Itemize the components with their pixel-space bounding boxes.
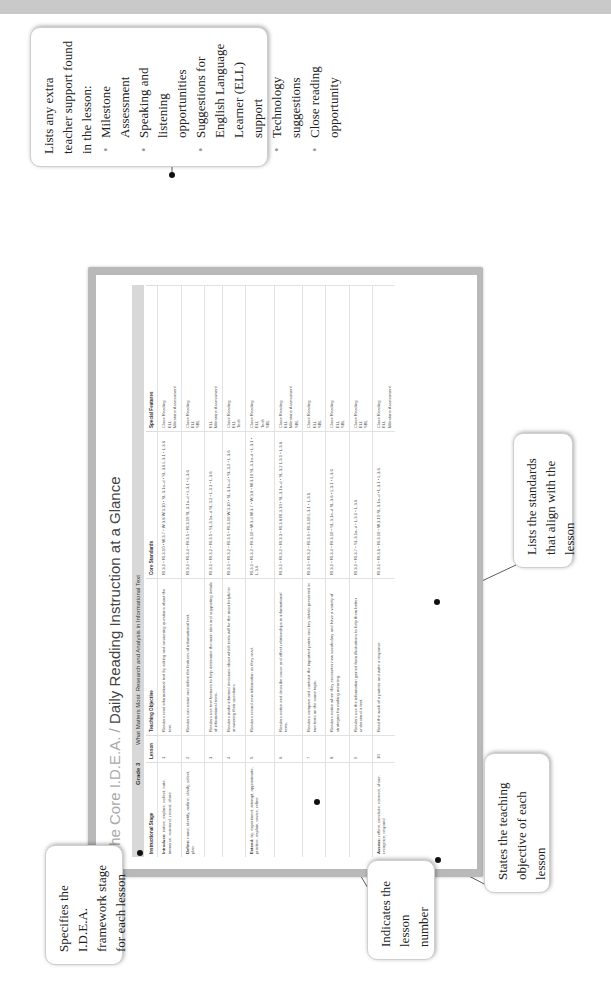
callout-stage-text: Specifies the I.D.E.A. framework stage f…: [56, 865, 128, 952]
stage-label: Extend:: [249, 839, 254, 854]
marker-dot-stage: [137, 850, 143, 856]
lesson-table: Instructional Stage Lesson Teaching Obje…: [146, 285, 395, 857]
grade-label: Grade 3: [132, 763, 144, 785]
title-separator: /: [106, 724, 123, 737]
special-features-item: Milestone Assessment: [96, 40, 134, 154]
table-row: 8Readers notice when they encounter new …: [326, 286, 349, 858]
cell-lesson: 8: [326, 736, 349, 763]
cell-stage: [274, 763, 303, 858]
cell-features: Close Reading ELL SBL: [303, 286, 326, 432]
col-header-stage: Instructional Stage: [146, 763, 158, 858]
cell-lesson: 1: [158, 736, 181, 763]
cell-features: Close Reading ELL Milestone Assessment: [372, 286, 395, 432]
cell-stage: [204, 763, 222, 858]
table-row: 3Readers use text features to help deter…: [204, 286, 222, 858]
cell-stage: Define: name, identify, outline, clarify…: [181, 763, 204, 858]
cell-standards: RI.3.1 • RI.3.6 • RI.3.10 • W.3.10 SL.3.…: [372, 432, 395, 579]
cell-stage: Assess: reflect, conclude, connect, shar…: [372, 763, 395, 858]
cell-stage: [303, 763, 326, 858]
cell-stage: Extend: try, experiment, attempt, approx…: [245, 763, 274, 858]
callout-standards-text: Lists the standards that align with the …: [524, 458, 577, 555]
cell-lesson: 3: [204, 736, 222, 763]
stage-label: Introduce:: [161, 834, 166, 854]
cell-objective: Readers can name and define the features…: [181, 579, 204, 736]
callout-objective: States the teaching objective of each le…: [484, 753, 550, 893]
cell-stage: [222, 763, 245, 858]
cell-features: ELL Milestone Assessment: [204, 286, 222, 432]
document-title: The Core I.D.E.A. / Daily Reading Instru…: [106, 476, 123, 855]
cell-standards: RI.3.1 • RI.3.2 • RI.3.3 • RI.3.8 RI.3.1…: [274, 432, 303, 579]
callout-stage: Specifies the I.D.E.A. framework stage f…: [45, 845, 123, 965]
cell-stage: Introduce: notice, explore, collect, not…: [158, 763, 181, 858]
col-header-standards: Core Standards: [146, 432, 158, 579]
special-features-list: Milestone Assessment Speaking and listen…: [96, 40, 343, 154]
special-features-item: Technology suggestions: [267, 40, 305, 154]
marker-dot-lesson: [314, 799, 320, 805]
table-row: Extend: try, experiment, attempt, approx…: [245, 286, 274, 858]
title-brand: The Core I.D.E.A.: [106, 737, 123, 855]
col-header-objective: Teaching Objective: [146, 579, 158, 736]
cell-features: Close Reading ELL SBL: [326, 286, 349, 432]
table-row: Assess: reflect, conclude, connect, shar…: [372, 286, 395, 858]
cell-stage: [349, 763, 372, 858]
cell-standards: RI.3.1 • RI.3.2 • RI.3.5 • RI.3.10 W.3.1…: [222, 432, 245, 579]
callout-standards: Lists the standards that align with the …: [513, 433, 573, 568]
cell-objective: Readers read informational text by askin…: [158, 579, 181, 736]
table-row: 9Readers use the information gained from…: [349, 286, 372, 858]
table-row: Introduce: notice, explore, collect, not…: [158, 286, 181, 858]
marker-dot-objective: [435, 857, 441, 863]
cell-objective: Readers use text features to help determ…: [204, 579, 222, 736]
cell-features: Close Reading ELL Milestone Assessment: [158, 286, 181, 432]
col-header-features: Special Features: [146, 286, 158, 432]
cell-lesson: 10: [372, 736, 395, 763]
callout-special-features-intro: Lists any extra teacher support found in…: [39, 40, 96, 154]
cell-objective: Read the work of a partner and write a r…: [372, 579, 395, 736]
grade-bar: Grade 3 What Matters Most: Research and …: [132, 285, 144, 857]
table-header-row: Instructional Stage Lesson Teaching Obje…: [146, 286, 158, 858]
title-text: Daily Reading Instruction at a Glance: [106, 476, 123, 724]
cell-lesson: 6: [274, 736, 303, 763]
cell-features: Close Reading ELL Milestone Assessment S…: [274, 286, 303, 432]
marker-dot-standards: [434, 599, 440, 605]
cell-features: Close Reading ELL SBL: [349, 286, 372, 432]
cell-features: Close Reading ELL Tech SBL: [245, 286, 274, 432]
callout-lesson-number-text: Indicates the lesson number: [378, 881, 431, 947]
table-body: Introduce: notice, explore, collect, not…: [158, 286, 395, 858]
cell-lesson: 7: [303, 736, 326, 763]
cell-objective: Readers use the information gained from …: [349, 579, 372, 736]
cell-objective: Readers make informed decisions about wh…: [222, 579, 245, 736]
cell-objective: Readers notice when they encounter new v…: [326, 579, 349, 736]
rotated-page: The Core I.D.E.A. / Daily Reading Instru…: [0, 0, 611, 995]
cell-features: Close Reading ELL SBL: [181, 286, 204, 432]
cell-standards: RI.3.1 • RI.3.4 • RI.3.5 • RI.3.10 SL.3.…: [181, 432, 204, 579]
unit-title: What Matters Most: Research and Analysis…: [132, 575, 144, 745]
cell-objective: Readers notice and describe cause and ef…: [274, 579, 303, 736]
special-features-item: Speaking and listening opportunities: [134, 40, 191, 154]
cell-standards: RI.3.1 • RI.3.7 • SL.3.1a–d • L.3.1 • L.…: [349, 432, 372, 579]
callout-special-features: Lists any extra teacher support found in…: [30, 27, 268, 167]
cell-lesson: 4: [222, 736, 245, 763]
cell-objective: Readers compare and contrast the importa…: [303, 579, 326, 736]
marker-dot-features: [169, 172, 175, 178]
cell-lesson: 9: [349, 736, 372, 763]
col-header-lesson: Lesson: [146, 736, 158, 763]
callout-lesson-number: Indicates the lesson number: [367, 860, 435, 960]
cell-lesson: 2: [181, 736, 204, 763]
document-frame: The Core I.D.E.A. / Daily Reading Instru…: [88, 267, 483, 877]
callout-objective-text: States the teaching objective of each le…: [495, 783, 548, 880]
stage-label: Define:: [185, 840, 190, 854]
table-row: 7Readers compare and contrast the import…: [303, 286, 326, 858]
table-row: Define: name, identify, outline, clarify…: [181, 286, 204, 858]
cell-objective: Readers record new information as they r…: [245, 579, 274, 736]
cell-lesson: 5: [245, 736, 274, 763]
table-row: 6Readers notice and describe cause and e…: [274, 286, 303, 858]
cell-features: Close Reading ELL Tech: [222, 286, 245, 432]
special-features-item: Close reading opportunity: [305, 40, 343, 154]
cell-standards: RI.3.1 • RI.3.2 • RI.3.5 • SL.3.1a–d SL.…: [204, 432, 222, 579]
document-page: The Core I.D.E.A. / Daily Reading Instru…: [96, 275, 477, 869]
cell-standards: RI.3.1 • RI.3.2 • RI.3.10 • W.3.4 W.3.7 …: [245, 432, 274, 579]
cell-stage: [326, 763, 349, 858]
stage-label: Assess:: [376, 838, 381, 854]
special-features-item: Suggestions for English Language Learner…: [191, 40, 267, 154]
cell-standards: RI.3.1 • RI.3.4 • RI.3.10 • SL.3.1a–d SL…: [326, 432, 349, 579]
